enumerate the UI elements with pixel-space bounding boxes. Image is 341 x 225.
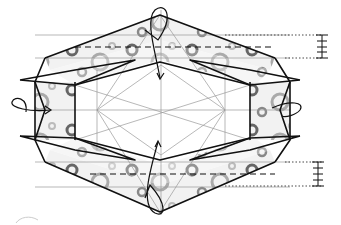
paper-surfaces xyxy=(35,15,290,212)
corner-mark xyxy=(16,217,38,223)
diagram-canvas xyxy=(0,0,341,225)
right-panel xyxy=(250,82,290,140)
top-scale xyxy=(316,35,328,58)
origami-diagram xyxy=(0,0,341,225)
diagonal-crease-4 xyxy=(161,110,225,155)
bottom-scale xyxy=(312,162,324,186)
top-fold-arrowhead xyxy=(157,73,164,79)
